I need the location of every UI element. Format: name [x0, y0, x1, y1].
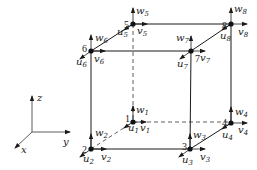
- cube-edges: [91, 24, 231, 149]
- node-3: [187, 146, 192, 151]
- node-6-number: 6: [82, 43, 87, 54]
- w2-label: w2: [95, 127, 109, 140]
- w1-label: w1: [136, 104, 149, 117]
- coordinate-axes: z y x: [15, 92, 70, 155]
- u1-label: u1: [128, 122, 139, 135]
- w8-label: w8: [234, 3, 248, 16]
- hexahedron-diagram: z y x: [0, 0, 257, 170]
- w7-label: w7: [176, 32, 190, 45]
- node-3-number: 3: [182, 141, 187, 152]
- node-5: [130, 21, 135, 26]
- v1-label: v1: [140, 122, 150, 135]
- node-2: [88, 146, 93, 151]
- v2-label: v2: [101, 151, 112, 164]
- u7-label: u7: [177, 58, 188, 71]
- w3-label: w3: [193, 129, 207, 142]
- x-axis-label: x: [21, 144, 27, 155]
- w5-label: w5: [136, 5, 150, 18]
- u8-label: u8: [220, 30, 231, 43]
- z-axis-label: z: [36, 92, 43, 103]
- v7-label: v7: [200, 52, 211, 65]
- y-axis-label: y: [62, 136, 69, 147]
- u6-label: u6: [76, 56, 87, 69]
- v5-label: v5: [137, 25, 148, 38]
- nodes: [88, 21, 233, 151]
- v6-label: v6: [94, 53, 105, 66]
- node-5-number: 5: [124, 19, 129, 30]
- w6-label: w6: [95, 32, 109, 45]
- u3-label: u3: [182, 154, 193, 167]
- node-8: [228, 21, 233, 26]
- v8-label: v8: [238, 26, 249, 39]
- node-4-number: 4: [222, 117, 227, 128]
- w4-label: w4: [235, 106, 248, 119]
- v3-label: v3: [200, 151, 211, 164]
- node-7: [188, 48, 193, 53]
- v4-label: v4: [238, 124, 248, 137]
- node-6: [88, 48, 93, 53]
- u2-label: u2: [83, 153, 94, 166]
- u4-label: u4: [222, 129, 233, 142]
- node-4: [228, 120, 233, 125]
